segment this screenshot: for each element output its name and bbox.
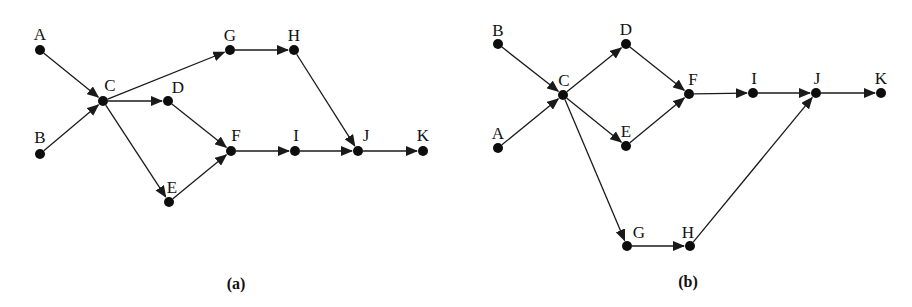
node-label-k: K xyxy=(875,69,888,88)
node-label-h: H xyxy=(682,223,694,242)
edge-a-to-c xyxy=(502,99,558,145)
node-label-k: K xyxy=(417,126,430,145)
node-d xyxy=(621,39,631,49)
node-label-b: B xyxy=(34,128,45,147)
node-c xyxy=(98,96,108,106)
node-label-d: D xyxy=(172,78,184,97)
node-label-c: C xyxy=(104,76,115,95)
edge-h-to-j xyxy=(693,98,812,243)
node-i xyxy=(748,88,758,98)
figure-b-activity-network: BACDEFIJKGH(b) xyxy=(492,20,888,291)
node-f xyxy=(226,146,236,156)
edge-h-to-j xyxy=(297,54,355,146)
node-a xyxy=(35,45,45,55)
node-g xyxy=(622,241,632,251)
node-label-j: J xyxy=(814,69,821,88)
node-label-e: E xyxy=(167,178,177,197)
node-label-h: H xyxy=(288,26,300,45)
node-b xyxy=(493,39,503,49)
node-g xyxy=(225,45,235,55)
node-k xyxy=(418,146,428,156)
node-j xyxy=(353,146,363,156)
edge-c-to-d xyxy=(567,48,621,92)
edge-e-to-f xyxy=(173,155,227,199)
node-i xyxy=(290,146,300,156)
node-label-e: E xyxy=(621,122,631,141)
node-label-f: F xyxy=(231,126,240,145)
node-label-j: J xyxy=(363,126,370,145)
node-c xyxy=(558,90,568,100)
node-label-g: G xyxy=(224,26,236,45)
node-j xyxy=(811,88,821,98)
figure-caption-a: (a) xyxy=(227,275,246,293)
node-label-g: G xyxy=(633,223,645,242)
node-label-i: I xyxy=(293,126,299,145)
node-label-d: D xyxy=(620,20,632,39)
edge-e-to-f xyxy=(630,98,685,143)
figure-caption-b: (b) xyxy=(678,273,698,291)
edge-f-to-i xyxy=(694,93,747,94)
edge-d-to-f xyxy=(172,104,226,147)
edge-a-to-c xyxy=(44,53,98,97)
network-diagram-canvas: ABCDEFGHIJK(a) BACDEFIJKGH(b) xyxy=(0,0,912,307)
node-label-i: I xyxy=(751,69,757,88)
node-label-f: F xyxy=(688,70,697,89)
edge-c-to-e xyxy=(106,105,166,197)
node-a xyxy=(493,143,503,153)
edge-c-to-e xyxy=(567,98,621,142)
node-h xyxy=(685,241,695,251)
node-f xyxy=(684,89,694,99)
node-e xyxy=(164,197,174,207)
node-d xyxy=(163,96,173,106)
figure-a-activity-network: ABCDEFGHIJK(a) xyxy=(34,25,430,293)
node-k xyxy=(876,88,886,98)
node-label-a: A xyxy=(492,124,505,143)
node-label-c: C xyxy=(558,71,569,90)
node-h xyxy=(289,45,299,55)
node-label-a: A xyxy=(34,25,47,44)
edge-b-to-c xyxy=(44,105,99,151)
node-e xyxy=(621,141,631,151)
edge-b-to-c xyxy=(502,47,558,91)
edge-c-to-g xyxy=(108,52,225,99)
edge-d-to-f xyxy=(630,47,684,90)
node-label-b: B xyxy=(492,21,503,40)
node-b xyxy=(35,149,45,159)
